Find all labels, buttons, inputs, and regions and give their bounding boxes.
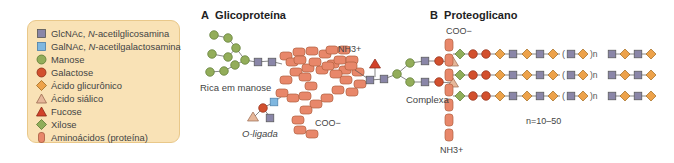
high-mannose-glycan — [206, 31, 282, 77]
svg-text:)n: )n — [590, 91, 598, 101]
o-linked-glycan — [248, 94, 286, 122]
glycan-diagram: ( )n ( )n ( )n — [0, 0, 674, 163]
label-nh3-a: NH3+ — [338, 44, 361, 54]
gag-chain-1: ( )n — [453, 49, 656, 59]
label-high-mannose: Rica em manose — [200, 82, 271, 93]
svg-text:)n: )n — [590, 49, 598, 59]
core-protein — [445, 39, 453, 141]
svg-text:(: ( — [562, 91, 565, 101]
complex-glycan — [355, 57, 459, 87]
svg-text:)n: )n — [590, 70, 598, 80]
label-n-range: n=10–50 — [526, 116, 561, 126]
svg-text:(: ( — [562, 70, 565, 80]
gag-chain-2: ( )n — [453, 70, 656, 80]
label-complex: Complexa — [406, 94, 449, 105]
svg-text:(: ( — [562, 49, 565, 59]
label-coo-b: COO− — [446, 26, 472, 36]
gag-chains: ( )n ( )n ( )n — [453, 49, 656, 101]
label-nh3-b: NH3+ — [440, 145, 463, 155]
gag-chain-3: ( )n — [453, 91, 656, 101]
label-coo-a: COO− — [315, 118, 341, 128]
label-o-linked: O-ligada — [242, 128, 278, 139]
